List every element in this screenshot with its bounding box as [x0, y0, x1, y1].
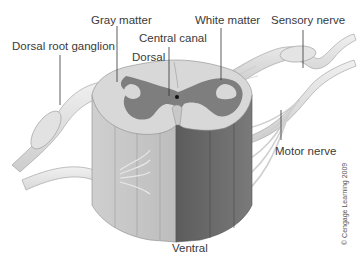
spinal-cord: [92, 60, 252, 242]
label-central-canal: Central canal: [139, 33, 207, 45]
label-motor-nerve: Motor nerve: [275, 146, 336, 158]
label-dorsal-root-ganglion: Dorsal root ganglion: [12, 41, 115, 53]
label-white-matter: White matter: [195, 15, 260, 27]
central-canal: [175, 95, 179, 99]
label-dorsal: Dorsal: [132, 52, 165, 64]
label-gray-matter: Gray matter: [91, 15, 152, 27]
label-sensory-nerve: Sensory nerve: [271, 15, 345, 27]
copyright-notice: © Cengage Learning 2009: [341, 163, 348, 245]
label-ventral: Ventral: [172, 243, 208, 255]
